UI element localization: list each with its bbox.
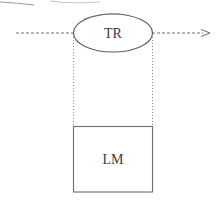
lm-label: LM — [103, 152, 125, 167]
node-lm: LM — [74, 127, 153, 193]
tr-label: TR — [104, 26, 123, 41]
diagram-canvas: TR LM — [0, 0, 221, 201]
node-tr: TR — [74, 14, 153, 52]
decorative-curve — [0, 2, 34, 5]
decorative-curve-2 — [50, 1, 100, 3]
